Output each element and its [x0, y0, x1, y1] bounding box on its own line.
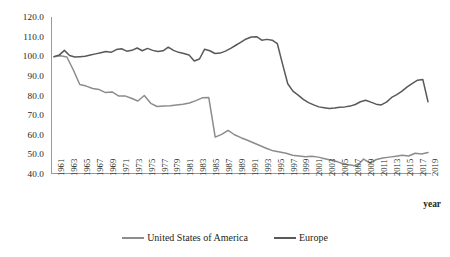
x-tick-label: 1961	[57, 159, 66, 176]
x-tick-label: 2007	[354, 159, 363, 176]
x-tick-label: 2005	[341, 159, 350, 176]
x-tick-label: 2015	[406, 159, 415, 176]
x-tick-label: 1987	[225, 159, 234, 176]
line-series-europe	[54, 37, 428, 109]
legend-swatch-icon	[274, 237, 296, 239]
x-tick-label: 2009	[367, 159, 376, 176]
x-tick-label: 2001	[315, 159, 324, 176]
y-tick-label: 80.0	[4, 92, 44, 101]
y-tick-label: 90.0	[4, 72, 44, 81]
legend-label: Europe	[299, 233, 328, 243]
legend-item-united-states-of-america[interactable]: United States of America	[122, 233, 248, 243]
legend-swatch-icon	[122, 237, 144, 239]
x-tick-label: 1969	[109, 159, 118, 176]
x-tick-label: 1973	[135, 159, 144, 176]
x-tick-label: 1977	[161, 159, 170, 176]
x-tick-label: 2017	[419, 159, 428, 176]
x-axis-labels: 1961196319651967196919711973197519771979…	[51, 176, 431, 216]
x-tick-label: 2003	[328, 159, 337, 176]
x-tick-label: 1995	[277, 159, 286, 176]
y-tick-label: 110.0	[4, 33, 44, 42]
y-tick-label: 70.0	[4, 111, 44, 120]
legend-label: United States of America	[147, 233, 248, 243]
x-tick-label: 1985	[212, 159, 221, 176]
x-axis-title: year	[423, 199, 441, 209]
x-tick-label: 1981	[186, 159, 195, 176]
x-tick-label: 1999	[302, 159, 311, 176]
plot-area	[51, 17, 431, 174]
chart-container: 120.0 110.0 100.0 90.0 80.0 70.0 60.0 50…	[0, 0, 450, 257]
x-tick-label: 1965	[83, 159, 92, 176]
x-tick-label: 1971	[122, 159, 131, 176]
x-tick-label: 1991	[251, 159, 260, 176]
y-tick-label: 120.0	[4, 13, 44, 22]
y-tick-label: 50.0	[4, 150, 44, 159]
x-tick-label: 1997	[290, 159, 299, 176]
x-tick-label: 1967	[96, 159, 105, 176]
chart-legend: United States of America Europe	[0, 233, 450, 243]
x-tick-label: 1993	[264, 159, 273, 176]
x-tick-label: 2011	[380, 159, 389, 176]
y-tick-label: 100.0	[4, 52, 44, 61]
x-tick-label: 2013	[393, 159, 402, 176]
legend-item-europe[interactable]: Europe	[274, 233, 328, 243]
y-tick-label: 60.0	[4, 131, 44, 140]
x-tick-label: 1983	[199, 159, 208, 176]
line-series-united-states-of-america	[54, 56, 428, 166]
x-tick-label: 2019	[431, 159, 440, 176]
x-tick-label: 1989	[238, 159, 247, 176]
x-tick-label: 1963	[70, 159, 79, 176]
y-tick-label: 40.0	[4, 170, 44, 179]
x-tick-label: 1979	[173, 159, 182, 176]
x-tick-label: 1975	[148, 159, 157, 176]
series-canvas	[51, 17, 431, 174]
